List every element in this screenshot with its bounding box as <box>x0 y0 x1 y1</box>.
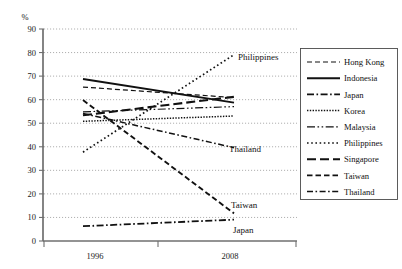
legend-label-philippines: Philippines <box>344 138 383 148</box>
line-chart: 0102030405060708090 % 19962008 Philippin… <box>0 0 402 269</box>
series-lines-group <box>83 55 234 227</box>
y-axis-tick-label: 0 <box>32 236 36 246</box>
y-axis-tick-label: 70 <box>28 71 37 81</box>
y-axis-tick-label: 80 <box>28 48 37 58</box>
legend-label-indonesia: Indonesia <box>344 73 378 83</box>
y-axis-tick-label: 50 <box>28 118 37 128</box>
inline-label-philippines: Philippines <box>238 52 279 62</box>
y-axis-tick-label: 10 <box>28 212 37 222</box>
y-axis-tick-label: 60 <box>28 95 37 105</box>
series-line-taiwan <box>83 100 234 213</box>
series-line-hong-kong <box>83 87 234 98</box>
series-line-thailand <box>83 113 234 147</box>
y-axis-tick-label: 40 <box>28 142 37 152</box>
x-axis-tick-labels: 19962008 <box>87 251 239 261</box>
inline-label-thailand: Thailand <box>229 144 261 154</box>
y-axis-tick-label: 30 <box>28 165 37 175</box>
legend-label-thailand: Thailand <box>344 187 375 197</box>
series-line-philippines <box>83 55 234 152</box>
inline-label-taiwan: Taiwan <box>231 200 258 210</box>
chart-canvas: 0102030405060708090 % 19962008 Philippin… <box>0 0 402 269</box>
legend-label-malaysia: Malaysia <box>344 122 376 132</box>
y-axis-tick-labels: 0102030405060708090 <box>28 24 37 246</box>
legend-label-singapore: Singapore <box>344 154 379 164</box>
series-line-malaysia <box>83 107 234 112</box>
series-line-japan <box>83 220 234 227</box>
legend-label-japan: Japan <box>344 90 364 100</box>
inline-series-labels-group: PhilippinesThailandTaiwanJapan <box>229 52 279 235</box>
series-line-indonesia <box>83 79 234 103</box>
legend-label-taiwan: Taiwan <box>344 171 370 181</box>
y-axis-tick-label: 20 <box>28 189 37 199</box>
y-axis-unit-label: % <box>21 12 28 22</box>
legend-label-korea: Korea <box>344 106 365 116</box>
y-axis-tick-label: 90 <box>28 24 37 34</box>
inline-label-japan: Japan <box>233 225 254 235</box>
legend-label-hong-kong: Hong Kong <box>344 57 385 67</box>
x-axis-tick-label: 1996 <box>87 251 104 261</box>
x-axis-tick-label: 2008 <box>222 251 239 261</box>
